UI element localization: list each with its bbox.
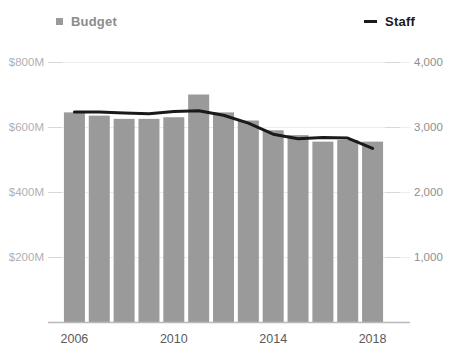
bar[interactable]	[213, 112, 234, 322]
right-axis-tick-labels: 1,0002,0003,0004,000	[414, 56, 443, 263]
bar[interactable]	[263, 130, 284, 322]
chart-container: Budget Staff $200M$400M$600M$800M 1,0002…	[0, 0, 457, 357]
left-axis-tick-label: $800M	[9, 56, 44, 68]
bar[interactable]	[362, 142, 383, 322]
left-axis-tick-labels: $200M$400M$600M$800M	[9, 56, 44, 263]
left-axis-tick-label: $600M	[9, 121, 44, 133]
right-axis-tick-label: 1,000	[414, 251, 443, 263]
bar[interactable]	[114, 119, 135, 322]
bar[interactable]	[163, 117, 184, 322]
bar[interactable]	[89, 116, 110, 322]
bar[interactable]	[138, 119, 159, 322]
bar[interactable]	[188, 95, 209, 323]
left-axis-tick-label: $400M	[9, 186, 44, 198]
bar[interactable]	[312, 142, 333, 322]
x-axis-tick-label: 2018	[359, 332, 387, 346]
x-axis-tick-label: 2010	[160, 332, 188, 346]
bar[interactable]	[288, 135, 309, 322]
chart-plot: $200M$400M$600M$800M 1,0002,0003,0004,00…	[0, 0, 457, 357]
bar[interactable]	[238, 121, 259, 323]
x-axis-tick-label: 2006	[61, 332, 89, 346]
bar[interactable]	[337, 140, 358, 322]
right-axis-tick-label: 2,000	[414, 186, 443, 198]
x-axis-tick-label: 2014	[259, 332, 287, 346]
right-axis-tick-label: 3,000	[414, 121, 443, 133]
right-axis-tick-label: 4,000	[414, 56, 443, 68]
x-axis-tick-labels: 2006201020142018	[61, 332, 387, 346]
bar-series-budget	[64, 95, 383, 323]
bar[interactable]	[64, 112, 85, 322]
left-axis-tick-label: $200M	[9, 251, 44, 263]
